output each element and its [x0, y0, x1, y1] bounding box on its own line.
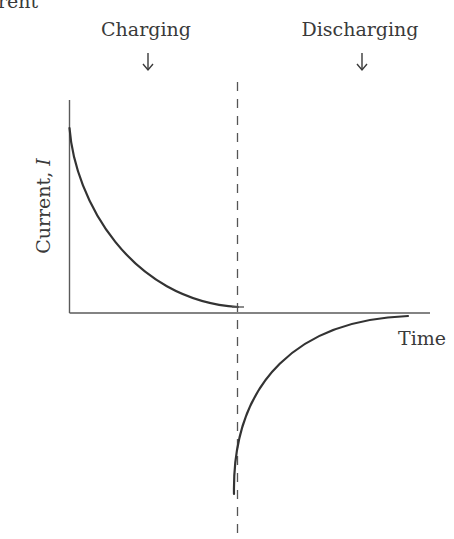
charging-label: Charging: [101, 18, 191, 40]
y-axis-label: Current, I: [32, 158, 54, 254]
x-axis-label: Time: [398, 327, 446, 349]
discharging-down-arrow-icon: [357, 53, 367, 70]
charging-down-arrow-icon: [143, 53, 153, 70]
discharging-current-curve: [234, 316, 408, 494]
charging-discharging-diagram: rent Charging Discharging Current, I Tim…: [0, 0, 454, 539]
charging-current-curve: [70, 128, 239, 307]
cut-off-caption: rent: [0, 0, 39, 12]
discharging-label: Discharging: [302, 18, 419, 40]
